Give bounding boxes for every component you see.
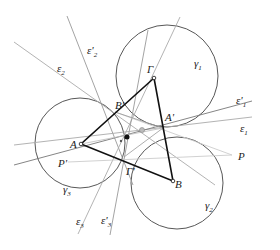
point-gray <box>140 128 145 133</box>
label-P: P <box>237 150 245 162</box>
label-P1: P' <box>57 157 68 169</box>
label-gamma2: γ2 <box>205 199 213 214</box>
label-eps3: ε3 <box>76 215 84 230</box>
point-small <box>120 140 122 142</box>
label-eps1p: ε'1 <box>236 94 246 109</box>
line-b1-a1 <box>115 112 163 128</box>
label-A: A <box>69 138 77 150</box>
diagram-svg: Γ A B A' B' Γ' P P' γ1 γ2 γ3 ε'1 ε1 ε2 ε… <box>0 0 280 250</box>
label-G: Γ <box>146 63 154 75</box>
label-G1: Γ' <box>125 165 135 177</box>
label-B: B <box>175 178 182 190</box>
label-eps2: ε2 <box>57 62 65 77</box>
geometry-diagram: Γ A B A' B' Γ' P P' γ1 γ2 γ3 ε'1 ε1 ε2 ε… <box>0 0 280 250</box>
label-eps1: ε1 <box>240 122 248 137</box>
point-center <box>125 135 130 140</box>
label-eps3p: ε'3 <box>101 214 112 229</box>
line-p <box>68 155 232 162</box>
line-eps1 <box>14 117 252 145</box>
label-gamma1: γ1 <box>194 57 202 72</box>
label-B1: B' <box>115 99 125 111</box>
label-eps2p: ε'2 <box>87 44 98 59</box>
point-G <box>152 76 156 80</box>
label-A1: A' <box>164 111 175 123</box>
point-A <box>79 142 83 146</box>
label-gamma3: γ3 <box>63 183 71 198</box>
